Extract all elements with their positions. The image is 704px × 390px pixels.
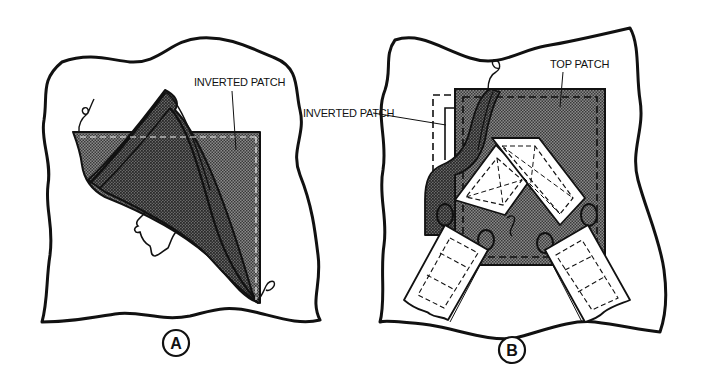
panel-b: INVERTED PATCH TOP PATCH B	[303, 28, 666, 363]
label-inverted-patch-a: INVERTED PATCH	[194, 76, 286, 88]
caption-a: A	[170, 335, 182, 352]
panel-a: INVERTED PATCH A	[42, 38, 320, 356]
patch-repair-diagram: INVERTED PATCH A	[0, 0, 704, 390]
label-inverted-patch-b: INVERTED PATCH	[303, 107, 395, 119]
caption-b: B	[506, 342, 518, 359]
label-top-patch: TOP PATCH	[550, 58, 609, 70]
